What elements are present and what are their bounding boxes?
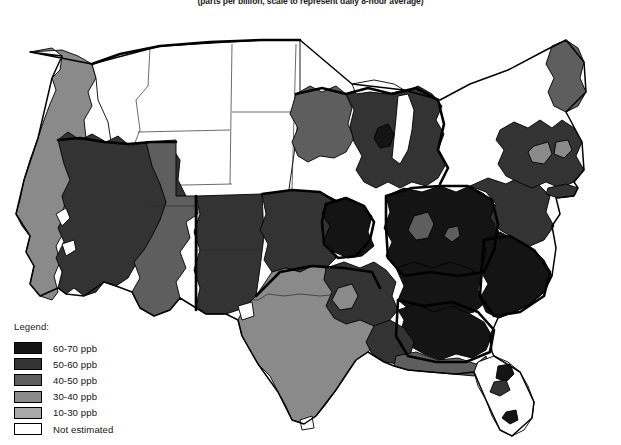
legend-label-30-40: 30-40 ppb: [53, 391, 97, 402]
legend-swatch-30-40: [14, 391, 42, 403]
legend-item-40-50: 40-50 ppb: [12, 372, 147, 388]
legend-swatch-10-30: [14, 407, 42, 419]
region-minnesota: [290, 86, 354, 162]
legend-item-60-70: 60-70 ppb: [12, 340, 147, 356]
legend-label-10-30: 10-30 ppb: [53, 407, 97, 418]
legend-heading: Legend:: [14, 321, 147, 332]
legend: Legend: 60-70 ppb 50-60 ppb 40-50 ppb 30…: [12, 321, 147, 437]
legend-item-50-60: 50-60 ppb: [12, 356, 147, 372]
region-maine: [546, 40, 586, 112]
region-carolinas-virginia-dark: [480, 232, 552, 318]
legend-item-30-40: 30-40 ppb: [12, 389, 147, 405]
region-colorado-newmexico: [194, 194, 264, 314]
legend-label-60-70: 60-70 ppb: [53, 343, 97, 354]
legend-label-not-estimated: Not estimated: [53, 424, 114, 435]
ozone-concentration-map-figure: (parts per billion, scale to represent d…: [0, 0, 621, 445]
legend-swatch-not-estimated: [14, 423, 42, 435]
legend-label-40-50: 40-50 ppb: [53, 375, 97, 386]
legend-swatch-40-50: [14, 374, 42, 386]
legend-item-10-30: 10-30 ppb: [12, 405, 147, 421]
legend-swatch-50-60: [14, 358, 42, 370]
region-central-plains: [260, 190, 338, 272]
legend-label-50-60: 50-60 ppb: [53, 359, 97, 370]
legend-swatch-60-70: [14, 342, 42, 354]
legend-item-not-estimated: Not estimated: [12, 421, 147, 437]
